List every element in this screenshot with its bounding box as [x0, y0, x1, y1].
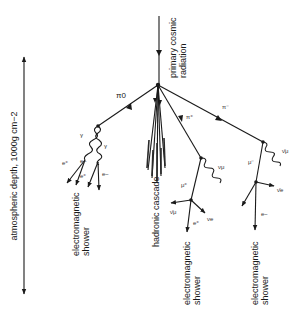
gamma1-label: γ [80, 132, 83, 138]
pi0-branch: π0 γ γ e⁺ e− e⁺ e− electromagnetic showe… [62, 85, 158, 256]
em-shower-right-line1: electromagnetic [250, 241, 260, 305]
pi-plus-branch: π⁺ νμ μ⁺ ν̄μ νe e⁺ electromagnetic showe… [158, 85, 225, 305]
nu-e-bar-label: ν̄e [277, 187, 284, 193]
em-shower-left-line2: shower [81, 227, 91, 256]
primary-label-line1: primary cosmic [168, 17, 178, 78]
mu-plus-line [191, 158, 201, 200]
nu-mu-bar-wave [263, 142, 281, 166]
pi-plus-label: π⁺ [186, 114, 193, 120]
e-plus-2-label: e⁺ [80, 173, 86, 179]
nu-mu-wave [201, 158, 221, 183]
em-shower-right-line2: shower [260, 276, 270, 305]
pi-minus-label: π⁻ [222, 104, 229, 110]
cosmic-ray-shower-diagram: atmospheric depth, 1000g cm−2 primary co… [0, 0, 301, 317]
pi0-label: π0 [116, 91, 127, 100]
primary-ray: primary cosmic radiation [156, 16, 188, 87]
hadronic-cascade: hadronic cascade [147, 85, 165, 247]
mu-minus-label: μ⁻ [248, 159, 254, 165]
e-minus-2-label: e− [102, 171, 109, 177]
depth-axis: atmospheric depth, 1000g cm−2 [9, 57, 24, 294]
em-shower-left-line1: electromagnetic [71, 192, 81, 256]
mu-plus-label: μ⁺ [181, 182, 187, 188]
e-minus-3-label: e− [261, 211, 268, 217]
e-plus-3-label: e⁺ [193, 220, 199, 226]
mu-minus-line [256, 142, 263, 182]
e-minus-1-label: e− [80, 158, 87, 164]
pi-minus-line [158, 85, 263, 142]
nu-mu-bar-2-label: ν̄μ [282, 148, 289, 154]
primary-label-line2: radiation [178, 43, 188, 78]
gamma2-wave [96, 126, 102, 165]
nu-mu-bar-1-label: ν̄μ [170, 209, 177, 215]
nu-mu-label: νμ [218, 164, 225, 170]
em-shower-mid-line2: shower [192, 276, 202, 305]
e-plus-1-label: e⁺ [62, 160, 68, 166]
primary-arrow-icon [156, 50, 162, 56]
nu-e-label: νe [207, 216, 214, 222]
depth-axis-label: atmospheric depth, 1000g cm−2 [9, 112, 19, 241]
hadronic-cascade-label: hadronic cascade [151, 176, 161, 247]
pi0-line [98, 85, 158, 126]
em-shower-mid-line1: electromagnetic [182, 241, 192, 305]
gamma2-label: γ [104, 143, 107, 149]
gamma1-wave [84, 126, 98, 160]
